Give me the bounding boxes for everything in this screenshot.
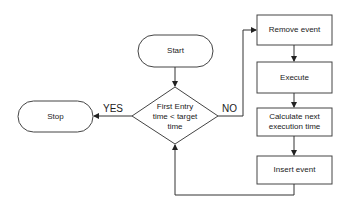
insert-event-node: Insert event [257,156,332,184]
calculate-node: Calculate next execution time [257,108,332,136]
start-label: Start [167,46,184,56]
execute-label: Execute [280,73,309,83]
decision-label-line3: time [167,122,182,132]
yes-edge-label: YES [103,103,123,114]
decision-node: First Entry time < target time [140,98,210,136]
decision-label-line2: time < target [153,112,198,122]
stop-node: Stop [18,101,93,132]
remove-event-label: Remove event [269,25,321,35]
no-edge-label: NO [222,103,237,114]
execute-node: Execute [257,62,332,93]
decision-label-line1: First Entry [157,102,193,112]
calculate-label-line1: Calculate next [269,112,320,122]
insert-event-label: Insert event [274,165,316,175]
remove-event-node: Remove event [257,15,332,45]
stop-label: Stop [47,112,63,122]
calculate-label-line2: execution time [269,122,321,132]
start-node: Start [138,35,213,67]
